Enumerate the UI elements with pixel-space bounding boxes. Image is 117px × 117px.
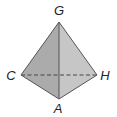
vertex-label-c: C — [6, 68, 16, 83]
vertex-label-a: A — [53, 101, 63, 116]
tetrahedron-svg: G C H A — [0, 0, 117, 117]
vertex-label-h: H — [100, 68, 110, 83]
tetrahedron-diagram: G C H A — [0, 0, 117, 117]
vertex-label-g: G — [54, 3, 64, 18]
